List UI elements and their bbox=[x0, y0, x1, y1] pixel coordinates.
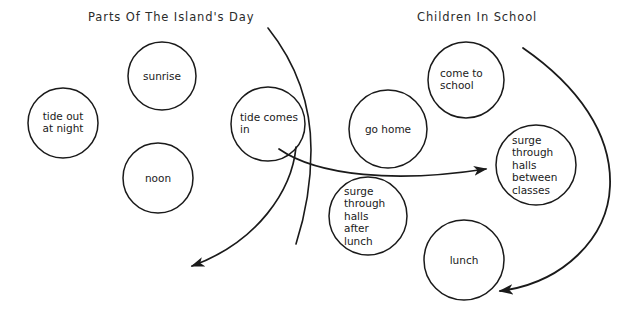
label-noon: noon bbox=[123, 172, 193, 184]
divider-arc-curve bbox=[268, 28, 311, 244]
label-surge-between-classes: surge through halls between classes bbox=[512, 134, 578, 196]
label-surge-after-lunch: surge through halls after lunch bbox=[344, 185, 406, 247]
label-sunrise: sunrise bbox=[127, 70, 197, 82]
label-lunch: lunch bbox=[429, 254, 499, 266]
label-go-home: go home bbox=[353, 123, 423, 135]
label-come-to-school: come to school bbox=[440, 67, 506, 92]
arrow-down-left bbox=[192, 147, 296, 266]
label-tide-comes-in: tide comes in bbox=[240, 111, 316, 136]
label-tide-out-at-night: tide out at night bbox=[28, 110, 98, 135]
